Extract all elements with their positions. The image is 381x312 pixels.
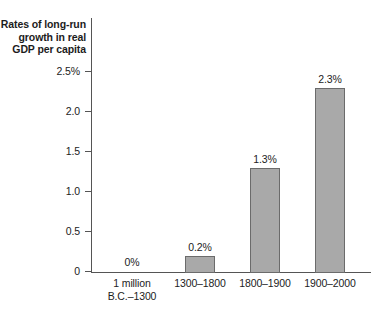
x-category-label-0-line-1: 1 million	[113, 277, 151, 289]
y-tick-label-0-wrap: 0	[0, 266, 80, 277]
y-tick-mark-3	[85, 151, 92, 152]
y-tick-label-3: 1.5	[0, 146, 80, 157]
bar-value-label-0: 0%	[102, 256, 162, 268]
bar-value-label-2: 1.3%	[235, 153, 295, 165]
y-tick-label-1: 0.5	[0, 226, 80, 237]
y-tick-mark-0	[85, 271, 92, 272]
y-tick-mark-5	[85, 71, 92, 72]
y-axis-caption-line-1: Rates of long-run	[0, 18, 86, 31]
y-tick-label-4-wrap: 2.0	[0, 106, 80, 117]
x-category-label-0-line-2: B.C.–1300	[92, 290, 172, 303]
y-tick-mark-2	[85, 191, 92, 192]
x-category-label-3-line-1: 1900–2000	[304, 277, 356, 289]
y-tick-label-5: 2.5%	[0, 66, 80, 77]
y-axis-caption-line-3: GDP per capita	[0, 43, 86, 56]
y-tick-label-5-wrap: 2.5%	[0, 66, 80, 77]
bar-1300-1800	[185, 256, 215, 273]
y-tick-label-1-wrap: 0.5	[0, 226, 80, 237]
x-category-label-1-line-1: 1300–1800	[174, 277, 226, 289]
bar-value-label-1: 0.2%	[170, 241, 230, 253]
x-category-label-3: 1900–2000	[290, 277, 370, 290]
y-tick-label-2: 1.0	[0, 186, 80, 197]
y-tick-mark-1	[85, 231, 92, 232]
bar-1800-1900	[250, 168, 280, 273]
y-axis-caption-line-2: growth in real	[0, 31, 86, 44]
y-tick-label-0: 0	[0, 266, 80, 277]
bar-1900-2000	[315, 88, 345, 273]
bar-value-label-3: 2.3%	[300, 73, 360, 85]
y-axis-caption: Rates of long-run growth in real GDP per…	[0, 18, 86, 56]
y-tick-label-4: 2.0	[0, 106, 80, 117]
x-category-label-2-line-1: 1800–1900	[239, 277, 291, 289]
y-tick-label-3-wrap: 1.5	[0, 146, 80, 157]
y-tick-label-2-wrap: 1.0	[0, 186, 80, 197]
y-tick-mark-4	[85, 111, 92, 112]
y-axis-line	[91, 18, 92, 273]
bar-chart: Rates of long-run growth in real GDP per…	[0, 0, 381, 312]
